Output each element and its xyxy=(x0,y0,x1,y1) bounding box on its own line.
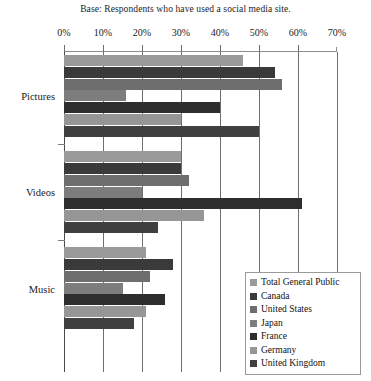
legend-label: Total General Public xyxy=(261,278,339,288)
bar xyxy=(64,90,126,101)
bar xyxy=(64,318,134,329)
legend-swatch-icon xyxy=(250,293,257,300)
legend-swatch-icon xyxy=(250,320,257,327)
bar xyxy=(64,114,181,125)
legend-swatch-icon xyxy=(250,333,257,340)
bar xyxy=(64,210,204,221)
legend-item[interactable]: Japan xyxy=(250,317,356,331)
bar xyxy=(64,126,259,137)
bar xyxy=(64,187,142,198)
legend-item[interactable]: Germany xyxy=(250,344,356,358)
bar xyxy=(64,294,165,305)
category-label: Music xyxy=(29,283,55,294)
x-tick-label: 10% xyxy=(94,27,112,38)
bar xyxy=(64,175,189,186)
legend-item[interactable]: United Kingdom xyxy=(250,357,356,371)
bar xyxy=(64,247,146,258)
legend-swatch-icon xyxy=(250,279,257,286)
bar xyxy=(64,55,243,66)
chart-container: Base: Respondents who have used a social… xyxy=(0,0,371,381)
bar xyxy=(64,271,150,282)
bar xyxy=(64,198,302,209)
legend: Total General PublicCanadaUnited StatesJ… xyxy=(245,272,361,375)
legend-item[interactable]: United States xyxy=(250,303,356,317)
legend-label: United States xyxy=(261,305,312,315)
group-separator xyxy=(58,240,65,241)
legend-label: Germany xyxy=(261,346,296,356)
x-tick-label: 60% xyxy=(289,27,307,38)
category-label: Videos xyxy=(26,187,55,198)
bar xyxy=(64,259,173,270)
x-tick-mark xyxy=(259,45,260,52)
legend-label: France xyxy=(261,332,287,342)
x-tick-label: 20% xyxy=(133,27,151,38)
legend-label: Canada xyxy=(261,292,290,302)
legend-swatch-icon xyxy=(250,360,257,367)
group-separator xyxy=(58,144,65,145)
x-tick-mark xyxy=(181,45,182,52)
bar xyxy=(64,222,158,233)
x-tick-label: 70% xyxy=(328,27,346,38)
x-tick-label: 0% xyxy=(57,27,70,38)
bar xyxy=(64,306,146,317)
x-tick-label: 30% xyxy=(172,27,190,38)
gridline xyxy=(220,52,221,372)
category-label: Pictures xyxy=(21,91,55,102)
legend-item[interactable]: Total General Public xyxy=(250,276,356,290)
legend-label: United Kingdom xyxy=(261,359,325,369)
legend-item[interactable]: France xyxy=(250,330,356,344)
legend-swatch-icon xyxy=(250,306,257,313)
bar xyxy=(64,67,275,78)
bar xyxy=(64,151,181,162)
x-tick-mark xyxy=(220,45,221,52)
x-tick-mark xyxy=(142,45,143,52)
bar xyxy=(64,79,282,90)
bar xyxy=(64,283,123,294)
x-tick-mark xyxy=(64,45,65,52)
x-axis-line xyxy=(64,51,337,52)
x-tick-label: 50% xyxy=(250,27,268,38)
x-tick-mark xyxy=(103,45,104,52)
x-tick-mark xyxy=(298,45,299,52)
x-tick-label: 40% xyxy=(211,27,229,38)
bar xyxy=(64,163,181,174)
legend-swatch-icon xyxy=(250,347,257,354)
legend-label: Japan xyxy=(261,319,283,329)
bar xyxy=(64,102,220,113)
legend-item[interactable]: Canada xyxy=(250,290,356,304)
